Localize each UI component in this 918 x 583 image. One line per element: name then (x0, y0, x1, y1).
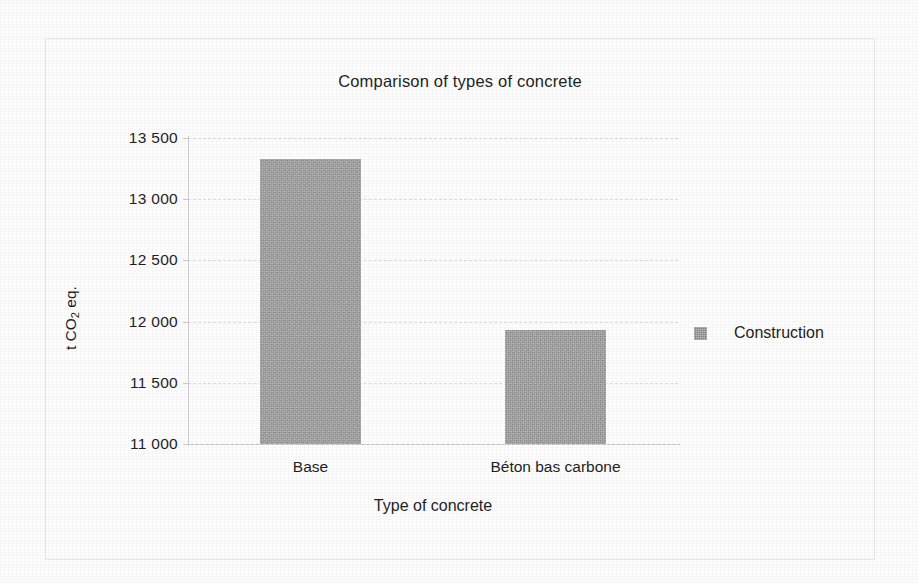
y-axis-tick-label: 12 500 (129, 251, 178, 269)
bar (260, 159, 361, 444)
y-axis-tick-mark (183, 383, 189, 384)
y-axis-tick-mark (183, 138, 189, 139)
y-axis-tick-mark (183, 322, 189, 323)
x-axis-category-label: Béton bas carbone (490, 458, 620, 476)
chart-title: Comparison of types of concrete (45, 72, 875, 91)
bar (505, 330, 606, 444)
chart-page: Comparison of types of concrete t CO2 eq… (0, 0, 918, 583)
y-axis-title-subscript: 2 (69, 312, 81, 318)
y-axis-tick-label: 13 500 (129, 129, 178, 147)
y-axis-title-suffix: eq. (62, 286, 79, 312)
y-axis-tick-label: 11 000 (130, 435, 178, 453)
y-axis-tick-labels: 13 50013 00012 50012 00011 50011 000 (104, 138, 178, 444)
plot-area (188, 138, 678, 444)
legend: Construction (694, 324, 824, 342)
x-axis-title: Type of concrete (188, 497, 678, 515)
y-axis-title: t CO2 eq. (62, 230, 81, 350)
y-axis-title-prefix: t CO (62, 318, 79, 350)
gridline (188, 138, 678, 139)
legend-swatch-construction (694, 327, 707, 340)
x-axis-category-label: Base (293, 458, 328, 476)
y-axis-tick-mark (183, 444, 189, 445)
legend-label-construction: Construction (734, 324, 824, 342)
y-axis-tick-label: 11 500 (130, 374, 178, 392)
gridline (188, 444, 678, 445)
y-axis-tick-label: 12 000 (129, 313, 178, 331)
y-axis-tick-label: 13 000 (129, 190, 178, 208)
y-axis-tick-mark (183, 199, 189, 200)
y-axis-tick-mark (183, 260, 189, 261)
